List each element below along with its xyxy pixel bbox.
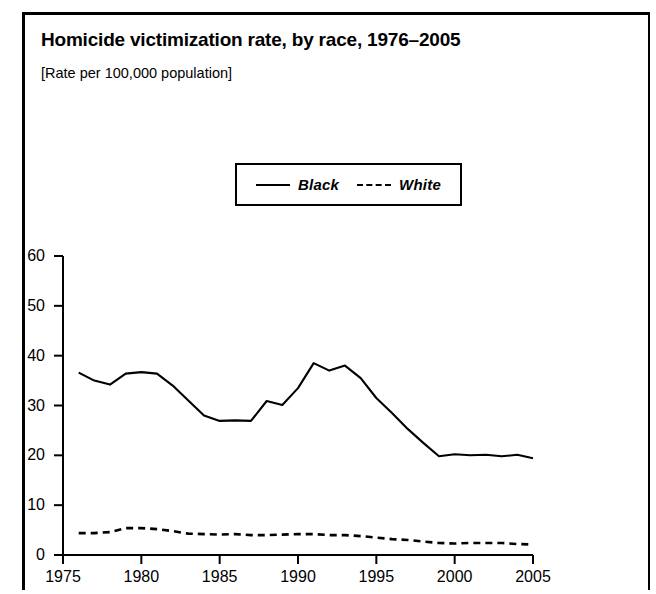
y-tick-label: 10 [11, 497, 45, 513]
y-tick-label: 40 [11, 348, 45, 364]
x-tick-label: 1985 [192, 569, 248, 585]
y-tick-label: 0 [11, 547, 45, 563]
x-tick-label: 1980 [113, 569, 169, 585]
series-line-white [79, 528, 533, 544]
y-tick-label: 60 [11, 248, 45, 264]
x-tick-label: 1990 [270, 569, 326, 585]
x-tick-label: 2000 [427, 569, 483, 585]
x-tick-label: 1995 [348, 569, 404, 585]
x-tick-label: 1975 [35, 569, 91, 585]
y-axis-ticks [54, 256, 63, 555]
axis-lines [63, 256, 533, 555]
x-axis-ticks [63, 555, 533, 564]
y-tick-label: 20 [11, 447, 45, 463]
series-line-black [79, 363, 533, 458]
chart-plot-area [25, 15, 653, 593]
y-tick-label: 30 [11, 398, 45, 414]
y-tick-label: 50 [11, 298, 45, 314]
x-tick-label: 2005 [505, 569, 561, 585]
figure-frame: Homicide victimization rate, by race, 19… [22, 12, 650, 590]
